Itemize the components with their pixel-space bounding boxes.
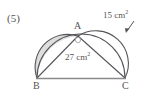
lune-area-label: 15 cm2 — [103, 11, 128, 20]
vertex-label-a: A — [74, 21, 81, 31]
lune-area-exponent: 2 — [125, 9, 128, 15]
problem-number: (5) — [7, 13, 20, 24]
leader-arrow — [125, 21, 134, 33]
figure-canvas — [0, 0, 155, 99]
triangle-area-value: 27 cm — [65, 52, 87, 62]
triangle-area-label: 27 cm2 — [65, 53, 90, 62]
lune-area-value: 15 cm — [103, 10, 125, 20]
geometry-figure: (5) A B C 27 cm2 15 cm2 — [0, 0, 155, 99]
vertex-label-b: B — [33, 81, 40, 91]
vertex-label-c: C — [122, 81, 129, 91]
triangle-area-exponent: 2 — [87, 51, 90, 57]
apex-marker — [75, 37, 80, 42]
